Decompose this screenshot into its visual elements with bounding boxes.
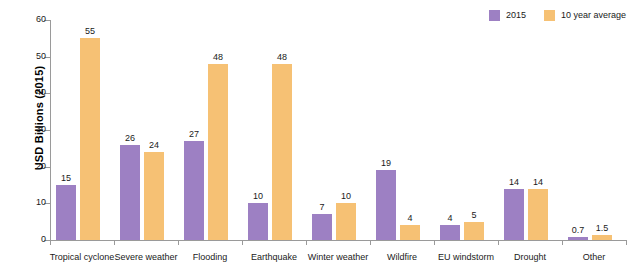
bar-group: 45: [434, 20, 498, 240]
y-axis-tick-label: 20: [36, 161, 46, 171]
x-axis-category-label: Drought: [514, 252, 546, 263]
y-axis-tick-label: 50: [36, 51, 46, 61]
bar-value-label: 10: [253, 191, 263, 201]
bar[interactable]: 4: [440, 225, 460, 240]
x-axis-category-label: Winter weather: [308, 252, 369, 263]
bar-value-label: 48: [277, 52, 287, 62]
x-axis-category-label: Wildfire: [387, 252, 417, 263]
bar[interactable]: 10: [336, 203, 356, 240]
bar-value-label: 55: [85, 26, 95, 36]
x-axis-category-label: Other: [583, 252, 606, 263]
bar-value-label: 14: [509, 177, 519, 187]
legend-label: 10 year average: [561, 10, 626, 21]
bar[interactable]: 5: [464, 222, 484, 240]
bar-group: 1414: [498, 20, 562, 240]
bar[interactable]: 48: [272, 64, 292, 240]
y-axis-tick-label: 0: [41, 234, 46, 244]
plot-area: 0102030405060 15552624274810487101944514…: [50, 20, 626, 240]
bar-value-label: 10: [341, 191, 351, 201]
bar[interactable]: 26: [120, 145, 140, 240]
bar-value-label: 27: [189, 129, 199, 139]
legend-item-2015[interactable]: 2015: [489, 10, 526, 21]
bar-group: 710: [306, 20, 370, 240]
bar-group: 2624: [114, 20, 178, 240]
bar-group: 194: [370, 20, 434, 240]
bar-value-label: 5: [471, 210, 476, 220]
x-axis-tick-mark: [626, 240, 627, 245]
bar[interactable]: 14: [504, 189, 524, 240]
x-axis-category-label: Severe weather: [114, 252, 177, 263]
bar-value-label: 48: [213, 52, 223, 62]
bar[interactable]: 19: [376, 170, 396, 240]
bar-value-label: 0.7: [572, 225, 585, 235]
x-axis-category-label: EU windstorm: [438, 252, 494, 263]
x-axis-tick-mark: [178, 240, 179, 245]
legend-label: 2015: [506, 10, 526, 21]
bar[interactable]: 27: [184, 141, 204, 240]
legend-swatch-icon: [489, 10, 500, 21]
x-axis-tick-mark: [242, 240, 243, 245]
bar-value-label: 14: [533, 177, 543, 187]
bar-value-label: 24: [149, 140, 159, 150]
bar[interactable]: 7: [312, 214, 332, 240]
x-axis-line: [50, 240, 626, 241]
x-axis-category-label: Tropical cyclone: [50, 252, 115, 263]
bar-chart: 2015 10 year average USD Billions (2015)…: [0, 0, 632, 266]
bar-value-label: 1.5: [596, 223, 609, 233]
bar[interactable]: 55: [80, 38, 100, 240]
bar-value-label: 7: [319, 202, 324, 212]
x-axis-tick-mark: [370, 240, 371, 245]
legend-swatch-icon: [544, 10, 555, 21]
x-axis-category-label: Flooding: [193, 252, 228, 263]
y-axis-tick-label: 30: [36, 124, 46, 134]
bar-group: 1048: [242, 20, 306, 240]
bar[interactable]: 48: [208, 64, 228, 240]
x-axis-tick-mark: [562, 240, 563, 245]
x-axis-tick-mark: [50, 240, 51, 245]
bar-value-label: 19: [381, 158, 391, 168]
y-axis-tick-label: 60: [36, 14, 46, 24]
x-axis-tick-mark: [434, 240, 435, 245]
bar-value-label: 4: [407, 213, 412, 223]
bar-value-label: 4: [447, 213, 452, 223]
bar[interactable]: 24: [144, 152, 164, 240]
bar-group: 2748: [178, 20, 242, 240]
y-axis-tick-label: 40: [36, 87, 46, 97]
bar[interactable]: 15: [56, 185, 76, 240]
bar-group: 1555: [50, 20, 114, 240]
bar[interactable]: 4: [400, 225, 420, 240]
bar-group: 0.71.5: [562, 20, 626, 240]
y-axis-tick-label: 10: [36, 197, 46, 207]
bar[interactable]: 10: [248, 203, 268, 240]
bar-value-label: 26: [125, 133, 135, 143]
x-axis-tick-mark: [306, 240, 307, 245]
x-axis-tick-mark: [498, 240, 499, 245]
x-axis-category-label: Earthquake: [251, 252, 297, 263]
x-axis-tick-mark: [114, 240, 115, 245]
bar[interactable]: 0.7: [568, 237, 588, 240]
bar[interactable]: 14: [528, 189, 548, 240]
legend-item-10-year-average[interactable]: 10 year average: [544, 10, 626, 21]
bar-value-label: 15: [61, 173, 71, 183]
bar[interactable]: 1.5: [592, 235, 612, 241]
